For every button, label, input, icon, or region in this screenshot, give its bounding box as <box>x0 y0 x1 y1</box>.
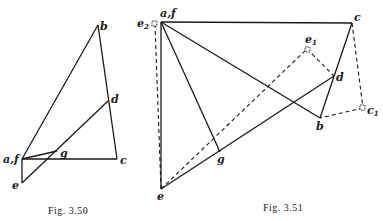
caption-fig-3-51: Fig. 3.51 <box>263 202 303 213</box>
line-b-c <box>98 25 117 159</box>
label-af: a,f <box>160 7 178 20</box>
caption-fig-3-50: Fig. 3.50 <box>48 205 88 216</box>
dashed-c-c1 <box>352 23 363 108</box>
label-e: e <box>157 190 164 203</box>
label-d: d <box>111 93 119 106</box>
dashed-e1-d <box>307 49 334 76</box>
line-af-g <box>161 22 220 152</box>
label-e: e <box>12 179 19 192</box>
dashed-c1-b <box>320 108 363 118</box>
label-e2: e2 <box>137 17 149 31</box>
line-af-b <box>161 22 320 118</box>
label-b: b <box>316 120 324 133</box>
label-c: c <box>354 11 361 24</box>
label-e1: e1 <box>305 33 317 47</box>
label-c: c <box>120 154 127 167</box>
figure-3-51: e2 a,f c e1 d b c1 g e Fig. 3.51 <box>137 7 379 213</box>
line-af-c <box>161 22 352 23</box>
line-e-d <box>161 76 334 189</box>
diagram-canvas: b d a,f g c e Fig. 3.50 e2 a,f c e1 d b … <box>0 0 383 221</box>
label-b: b <box>100 20 108 33</box>
right-angle-marker-e2 <box>152 21 157 26</box>
label-d: d <box>336 71 344 84</box>
right-angle-marker-c1 <box>360 105 365 110</box>
dashed-e2-e <box>155 24 161 189</box>
label-g: g <box>217 153 225 166</box>
label-g: g <box>60 147 68 160</box>
right-angle-marker-e1 <box>305 47 310 52</box>
line-e-d <box>22 101 108 183</box>
line-af-b <box>22 25 98 159</box>
figure-3-50: b d a,f g c e Fig. 3.50 <box>3 20 127 216</box>
label-af: a,f <box>3 153 21 166</box>
label-c1: c1 <box>367 104 379 118</box>
